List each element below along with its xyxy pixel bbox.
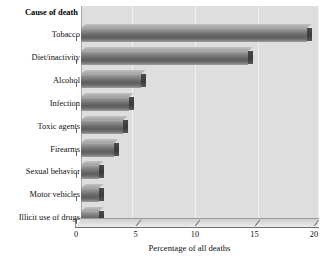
bar <box>81 116 128 129</box>
bar-front-face <box>81 97 129 111</box>
x-axis-line <box>75 227 319 228</box>
legend-header-label: Cause of death <box>25 8 78 17</box>
bar-side-face <box>129 97 134 110</box>
bar-side-face <box>114 143 119 156</box>
axis-floor-edge <box>75 218 319 219</box>
bar-front-face <box>81 51 248 65</box>
bar-side-face <box>307 28 312 41</box>
category-labels: Cause of death TobaccoDiet/inactivityAlc… <box>0 0 80 261</box>
bar-front-face <box>81 28 307 42</box>
x-tick-label: 5 <box>133 230 137 239</box>
bar-front-face <box>81 120 123 134</box>
category-label-firearms: Firearms <box>0 145 80 155</box>
bar-side-face <box>99 188 104 201</box>
bar <box>81 70 146 83</box>
gridline <box>318 6 319 219</box>
bar <box>81 139 119 152</box>
category-label-diet-inactivity: Diet/inactivity <box>0 53 80 63</box>
x-tick-label: 20 <box>310 230 318 239</box>
bar <box>81 47 253 60</box>
bar-side-face <box>123 120 128 133</box>
category-label-infection: Infection <box>0 99 80 109</box>
bar-side-face <box>99 165 104 178</box>
category-label-alcohol: Alcohol <box>0 76 80 86</box>
bar-side-face <box>141 74 146 87</box>
bar <box>81 93 134 106</box>
x-tick-label: 15 <box>250 230 258 239</box>
bar <box>81 24 312 37</box>
bar-front-face <box>81 165 99 179</box>
category-label-illicit-use-of-drugs: Illicit use of drugs <box>0 213 80 223</box>
bar-front-face <box>81 188 99 202</box>
x-axis-title: Percentage of all deaths <box>0 243 327 253</box>
bar-front-face <box>81 143 114 157</box>
x-tick-label: 0 <box>74 230 78 239</box>
category-label-toxic-agents: Toxic agents <box>0 122 80 132</box>
bar-side-face <box>248 51 253 64</box>
category-label-sexual-behavior: Sexual behavior <box>0 167 80 177</box>
x-tick-label: 10 <box>191 230 199 239</box>
bar-chart: Cause of death TobaccoDiet/inactivityAlc… <box>0 0 327 261</box>
category-label-motor-vehicles: Motor vehicles <box>0 190 80 200</box>
category-label-tobacco: Tobacco <box>0 30 80 40</box>
bar <box>81 161 104 174</box>
bar-front-face <box>81 74 141 88</box>
bar <box>81 184 104 197</box>
